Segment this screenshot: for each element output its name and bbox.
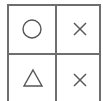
circle-icon <box>9 6 55 53</box>
game-board <box>7 4 101 101</box>
cell-r0-c0[interactable] <box>9 6 55 53</box>
x-icon <box>57 6 103 53</box>
triangle-icon <box>9 55 55 101</box>
cell-r0-c1[interactable] <box>57 6 103 53</box>
cell-r1-c0[interactable] <box>9 55 55 101</box>
cell-r1-c1[interactable] <box>57 55 103 101</box>
x-icon <box>57 55 103 101</box>
